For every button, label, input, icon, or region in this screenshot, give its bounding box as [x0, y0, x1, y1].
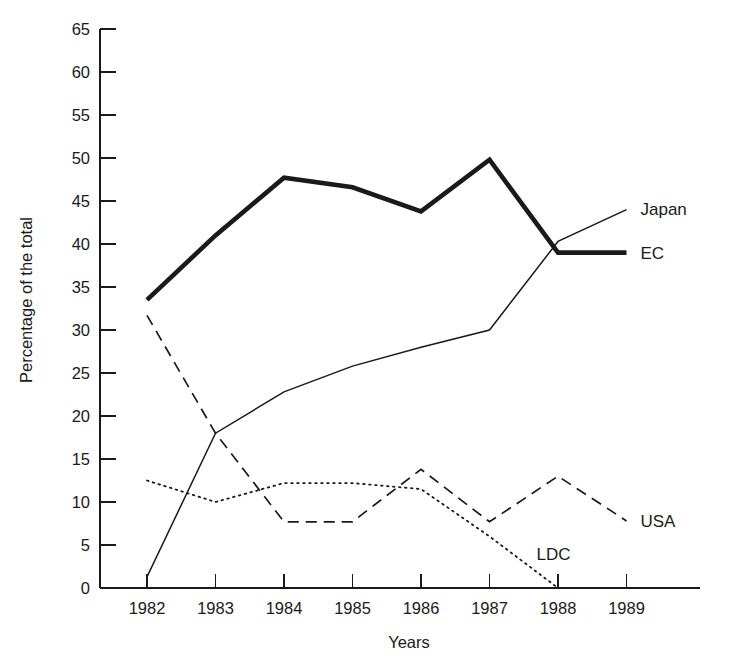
- chart-series-group: [147, 160, 627, 588]
- y-tick-label: 55: [72, 106, 90, 124]
- y-axis-title: Percentage of the total: [17, 217, 35, 383]
- y-tick-label: 50: [72, 149, 90, 167]
- series-label-ec: EC: [641, 244, 665, 263]
- chart-figure: 05101520253035404550556065 1982198319841…: [0, 0, 748, 667]
- chart-axes: [100, 29, 700, 588]
- y-tick-label: 10: [72, 493, 90, 511]
- series-line-ldc: [147, 481, 558, 589]
- series-label-japan: Japan: [641, 200, 687, 219]
- y-tick-label: 0: [81, 579, 90, 597]
- x-tick-label: 1989: [608, 599, 645, 617]
- series-line-usa: [147, 315, 627, 521]
- x-axis-ticks: 19821983198419851986198719881989: [129, 574, 645, 617]
- y-tick-label: 35: [72, 278, 90, 296]
- y-tick-label: 15: [72, 450, 90, 468]
- y-tick-label: 65: [72, 20, 90, 38]
- x-tick-label: 1982: [129, 599, 166, 617]
- x-tick-label: 1987: [471, 599, 508, 617]
- y-tick-label: 30: [72, 321, 90, 339]
- y-tick-label: 60: [72, 63, 90, 81]
- y-tick-label: 45: [72, 192, 90, 210]
- series-line-ec: [147, 160, 627, 300]
- x-tick-label: 1983: [197, 599, 234, 617]
- series-label-usa: USA: [641, 512, 677, 531]
- x-tick-label: 1986: [403, 599, 440, 617]
- x-tick-label: 1985: [334, 599, 371, 617]
- x-tick-label: 1984: [266, 599, 303, 617]
- line-chart-svg: 05101520253035404550556065 1982198319841…: [0, 0, 748, 667]
- x-tick-label: 1988: [540, 599, 577, 617]
- series-label-ldc: LDC: [537, 545, 571, 564]
- y-tick-label: 40: [72, 235, 90, 253]
- y-tick-label: 5: [81, 536, 90, 554]
- y-axis-ticks: 05101520253035404550556065: [72, 20, 116, 597]
- y-tick-label: 20: [72, 407, 90, 425]
- y-tick-label: 25: [72, 364, 90, 382]
- series-line-japan: [147, 210, 627, 577]
- x-axis-title: Years: [388, 633, 430, 651]
